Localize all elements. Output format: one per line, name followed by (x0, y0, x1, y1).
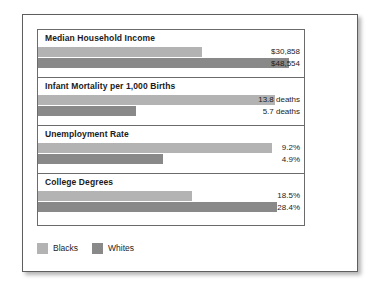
panel-title: Unemployment Rate (45, 129, 129, 139)
chart-panel-group: Median Household Income $30,858 $48,554 … (37, 29, 305, 226)
chart-panel: Unemployment Rate 9.2% 4.9% (38, 126, 304, 174)
legend-swatch-whites (92, 243, 103, 254)
panel-value-labels: 9.2% 4.9% (226, 142, 300, 165)
legend-label-blacks: Blacks (53, 243, 78, 253)
panel-title: Infant Mortality per 1,000 Births (45, 81, 175, 91)
bar-blacks (38, 47, 202, 57)
value-label-blacks: 13.8 deaths (226, 94, 300, 106)
chart-panel: College Degrees 18.5% 28.4% (38, 174, 304, 225)
bar-blacks (38, 191, 192, 201)
legend-entry-blacks: Blacks (37, 243, 78, 254)
chart-panel: Median Household Income $30,858 $48,554 (38, 30, 304, 78)
legend-entry-whites: Whites (92, 243, 134, 254)
value-label-blacks: 9.2% (226, 142, 300, 154)
chart-legend: Blacks Whites (37, 239, 134, 257)
bar-whites (38, 154, 163, 164)
value-label-blacks: 18.5% (226, 190, 300, 202)
value-label-whites: $48,554 (226, 58, 300, 70)
value-label-whites: 28.4% (226, 202, 300, 214)
value-label-blacks: $30,858 (226, 46, 300, 58)
panel-title: Median Household Income (45, 33, 155, 43)
chart-panel: Infant Mortality per 1,000 Births 13.8 d… (38, 78, 304, 126)
panel-value-labels: 18.5% 28.4% (226, 190, 300, 213)
panel-value-labels: $30,858 $48,554 (226, 46, 300, 69)
value-label-whites: 5.7 deaths (226, 106, 300, 118)
bar-whites (38, 106, 136, 116)
legend-label-whites: Whites (108, 243, 134, 253)
figure-frame: Median Household Income $30,858 $48,554 … (22, 14, 358, 272)
value-label-whites: 4.9% (226, 154, 300, 166)
legend-swatch-blacks (37, 243, 48, 254)
panel-value-labels: 13.8 deaths 5.7 deaths (226, 94, 300, 117)
panel-title: College Degrees (45, 177, 113, 187)
